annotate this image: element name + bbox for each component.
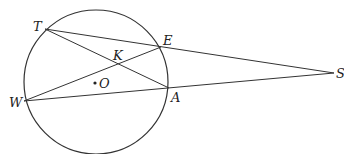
circle-diagram: T E A W S K O	[0, 0, 344, 154]
label-t: T	[33, 19, 43, 34]
label-s: S	[336, 66, 344, 81]
label-k: K	[112, 48, 124, 63]
secant-tes	[45, 29, 334, 73]
label-e: E	[162, 33, 173, 48]
label-o: O	[99, 76, 110, 91]
label-w: W	[9, 95, 24, 110]
label-a: A	[170, 90, 180, 105]
center-dot-o	[93, 81, 96, 84]
